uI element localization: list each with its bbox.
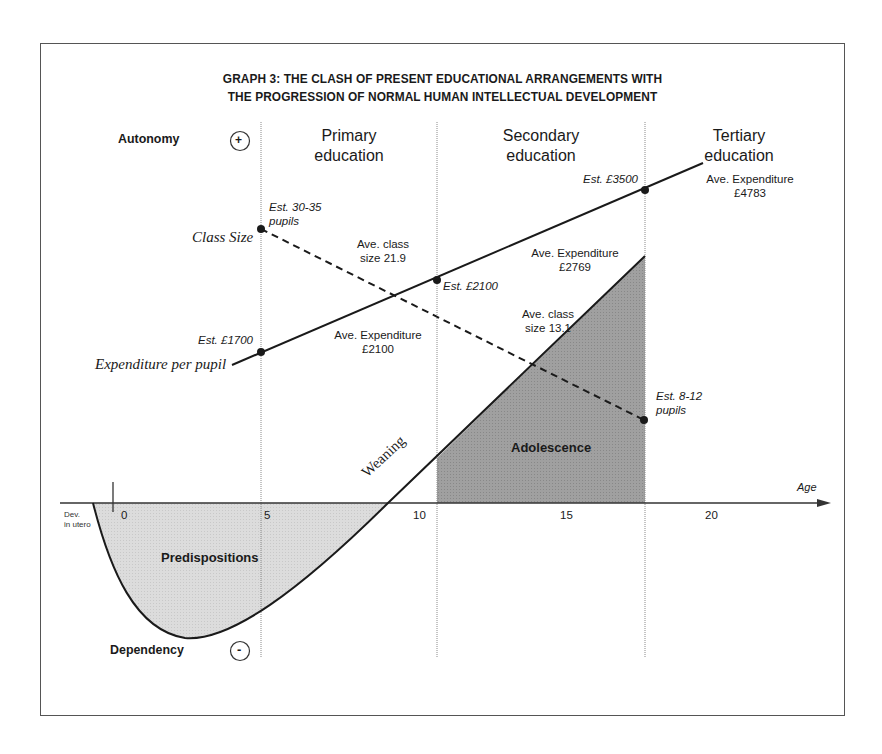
ave-class-21-9-line-2: size 21.9 — [338, 251, 428, 265]
est-2100-annotation: Est. £2100 — [443, 279, 498, 293]
x-axis-label: Age — [797, 481, 817, 493]
plus-symbol: + — [235, 133, 242, 147]
secondary-education-line-1: Secondary — [486, 126, 596, 146]
ave-class-size-21-9-annotation: Ave. class size 21.9 — [338, 237, 428, 265]
est-8-12-annotation: Est. 8-12 pupils — [656, 389, 702, 417]
ave-exp-2100-line-2: £2100 — [318, 342, 438, 356]
ave-expenditure-2100-annotation: Ave. Expenditure £2100 — [318, 328, 438, 356]
ave-class-size-13-1-annotation: Ave. class size 13.1 — [508, 307, 588, 335]
primary-education-label: Primary education — [299, 126, 399, 166]
ave-exp-4783-line-1: Ave. Expenditure — [690, 172, 810, 186]
expenditure-point-age-11 — [433, 276, 441, 284]
dev-in-utero-label: Dev. in utero — [64, 510, 91, 530]
dev-in-utero-line-1: Dev. — [64, 510, 91, 520]
ave-class-21-9-line-1: Ave. class — [338, 237, 428, 251]
est-30-35-line-2: pupils — [269, 214, 321, 228]
x-tick-20: 20 — [705, 509, 718, 521]
est-1700-annotation: Est. £1700 — [198, 333, 253, 347]
primary-education-line-2: education — [299, 146, 399, 166]
chart-container: GRAPH 3: THE CLASH OF PRESENT EDUCATIONA… — [0, 0, 882, 754]
dev-in-utero-line-2: in utero — [64, 520, 91, 530]
tertiary-education-line-2: education — [689, 146, 789, 166]
primary-education-line-1: Primary — [299, 126, 399, 146]
dependency-label: Dependency — [110, 642, 184, 657]
ave-exp-2769-line-1: Ave. Expenditure — [515, 246, 635, 260]
x-tick-0: 0 — [121, 509, 127, 521]
est-30-35-line-1: Est. 30-35 — [269, 200, 321, 214]
est-30-35-annotation: Est. 30-35 pupils — [269, 200, 321, 228]
expenditure-point-age-5 — [257, 348, 265, 356]
x-axis-arrow-icon — [817, 499, 831, 507]
ave-class-13-1-line-1: Ave. class — [508, 307, 588, 321]
est-3500-annotation: Est. £3500 — [583, 172, 638, 186]
adolescence-region — [437, 256, 645, 503]
minus-symbol: - — [237, 642, 241, 657]
ave-exp-2769-line-2: £2769 — [515, 260, 635, 274]
x-tick-5: 5 — [264, 509, 270, 521]
ave-exp-2100-line-1: Ave. Expenditure — [318, 328, 438, 342]
est-8-12-line-2: pupils — [656, 403, 702, 417]
class-size-point-end — [640, 416, 648, 424]
expenditure-series-label: Expenditure per pupil — [95, 356, 226, 373]
x-tick-10: 10 — [413, 509, 426, 521]
ave-expenditure-2769-annotation: Ave. Expenditure £2769 — [515, 246, 635, 274]
class-size-point-start — [257, 225, 265, 233]
autonomy-label: Autonomy — [118, 131, 179, 146]
adolescence-label: Adolescence — [511, 440, 591, 455]
tertiary-education-label: Tertiary education — [689, 126, 789, 166]
secondary-education-line-2: education — [486, 146, 596, 166]
est-8-12-line-1: Est. 8-12 — [656, 389, 702, 403]
tertiary-education-line-1: Tertiary — [689, 126, 789, 146]
ave-exp-4783-line-2: £4783 — [690, 186, 810, 200]
x-tick-15: 15 — [560, 509, 573, 521]
expenditure-point-age-18 — [641, 186, 649, 194]
secondary-education-label: Secondary education — [486, 126, 596, 166]
chart-plot — [0, 0, 882, 754]
ave-expenditure-4783-annotation: Ave. Expenditure £4783 — [690, 172, 810, 200]
predispositions-region — [93, 503, 388, 638]
class-size-series-label: Class Size — [192, 229, 253, 246]
predispositions-label: Predispositions — [161, 550, 259, 565]
ave-class-13-1-line-2: size 13.1 — [508, 321, 588, 335]
